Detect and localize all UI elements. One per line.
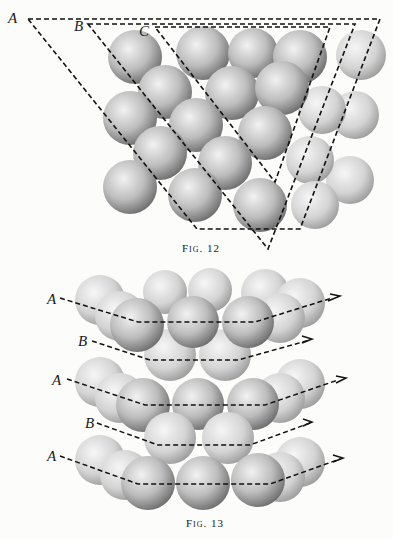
plane-label-a: A [8, 11, 17, 26]
layer-label-a2: A [52, 373, 61, 388]
fig13-spheres [75, 268, 325, 510]
layer-label-b2: B [85, 416, 94, 431]
layer-label-b1: B [78, 334, 87, 349]
plane-label-c: C [139, 24, 149, 39]
figure-caption-13: Fig. 13 [186, 517, 224, 529]
layer-label-a3: A [47, 449, 56, 464]
figure-canvas [0, 0, 393, 539]
layer-label-a1: A [47, 292, 56, 307]
plane-label-b: B [74, 19, 83, 34]
figure-caption-12: Fig. 12 [182, 242, 220, 254]
fig12-spheres [103, 26, 386, 232]
